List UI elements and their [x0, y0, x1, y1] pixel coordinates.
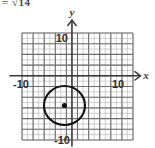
x-axis-name-label: x	[142, 69, 149, 81]
coordinate-plane: 10 -10 -10 10 y x	[0, 0, 155, 148]
x-axis-min-tick-label: -10	[13, 78, 29, 90]
axis-arrowheads	[68, 20, 141, 80]
x-axis-max-tick-label: 10	[112, 78, 124, 90]
graph-figure: = √14	[0, 0, 155, 148]
y-axis-name-label: y	[68, 6, 75, 18]
circle-center-point	[62, 103, 67, 108]
y-axis-max-tick-label: 10	[56, 32, 68, 44]
y-axis-min-tick-label: -10	[54, 134, 70, 146]
